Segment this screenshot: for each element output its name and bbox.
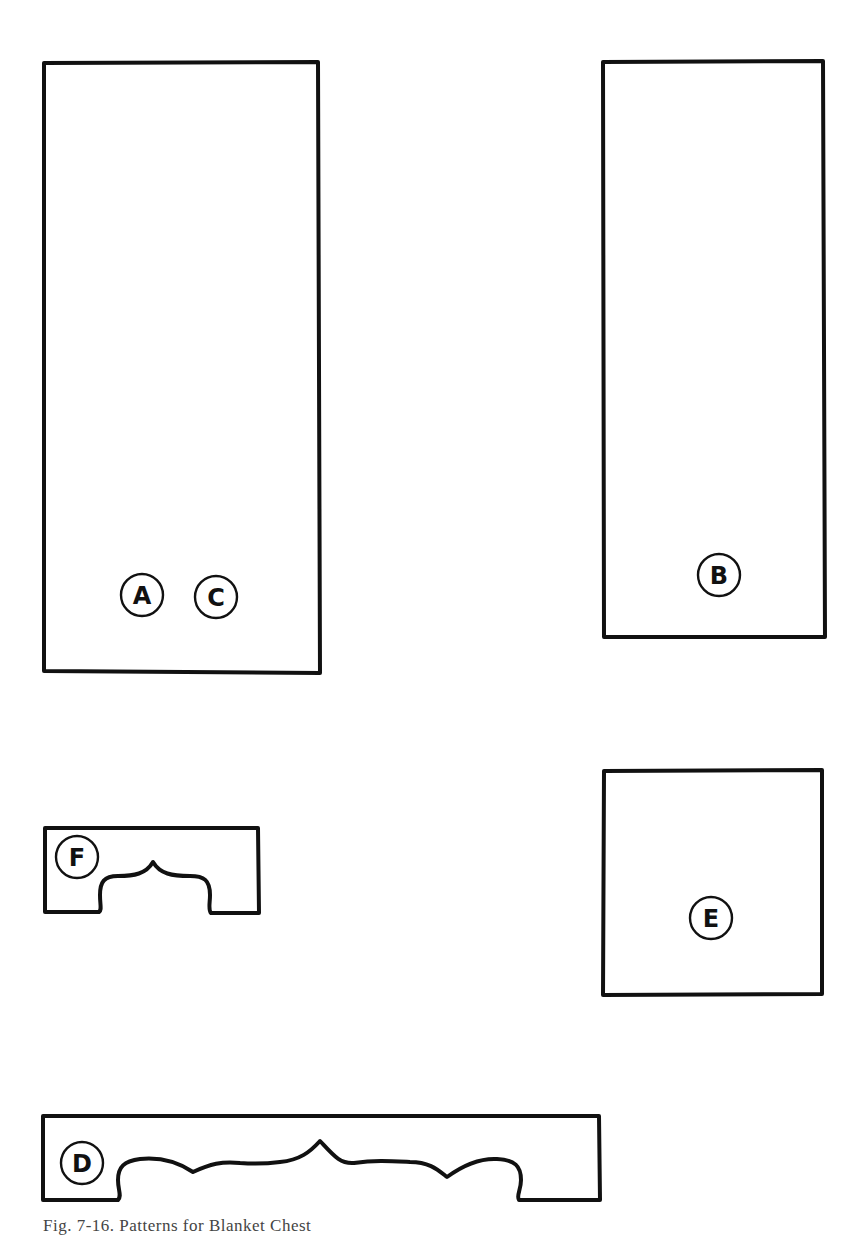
piece-e-outline bbox=[603, 770, 822, 995]
label-letter-c: C bbox=[207, 584, 225, 612]
piece-f: F bbox=[45, 828, 259, 913]
label-letter-f: F bbox=[69, 844, 85, 872]
piece-d: D bbox=[43, 1116, 600, 1200]
piece-a-outline bbox=[44, 62, 320, 673]
label-letter-d: D bbox=[72, 1150, 92, 1178]
piece-b: B bbox=[603, 61, 825, 637]
label-letter-e: E bbox=[703, 905, 719, 933]
piece-e: E bbox=[603, 770, 822, 995]
piece-a-c: A C bbox=[44, 62, 320, 673]
label-letter-a: A bbox=[133, 582, 152, 610]
figure-caption: Fig. 7-16. Patterns for Blanket Chest bbox=[43, 1216, 311, 1236]
piece-b-outline bbox=[603, 61, 825, 637]
piece-d-outline bbox=[43, 1116, 600, 1200]
label-letter-b: B bbox=[710, 562, 728, 590]
